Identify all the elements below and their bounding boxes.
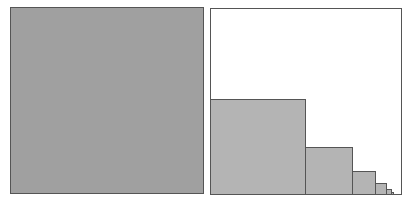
- full-square: [10, 7, 204, 194]
- square-6: [391, 192, 394, 195]
- halving-squares-frame: [210, 8, 402, 195]
- square-2: [305, 147, 353, 195]
- square-1: [210, 99, 306, 195]
- square-3: [352, 171, 376, 195]
